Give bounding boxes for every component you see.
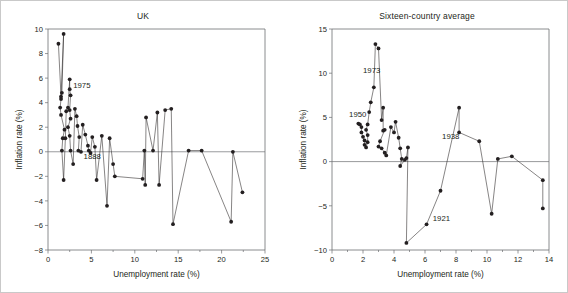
data-point	[79, 150, 83, 154]
series-line	[358, 44, 542, 243]
data-point	[141, 177, 145, 181]
annotation-label: 1950	[349, 110, 367, 119]
data-point	[77, 135, 81, 139]
data-point	[81, 123, 85, 127]
data-point	[397, 136, 401, 140]
data-point	[380, 146, 384, 150]
data-point	[68, 87, 72, 91]
data-point	[457, 106, 461, 110]
data-point	[200, 149, 204, 153]
data-point	[71, 162, 75, 166]
data-point	[241, 190, 245, 194]
data-point	[360, 131, 364, 135]
y-axis-title: Inflation rate (%)	[299, 109, 308, 169]
data-point	[383, 128, 387, 132]
x-tick-label: 5	[89, 255, 93, 264]
data-point	[57, 42, 61, 46]
data-point	[113, 174, 117, 178]
x-tick-label: 4	[392, 255, 396, 264]
data-point	[157, 183, 161, 187]
x-tick-label: 2	[361, 255, 365, 264]
y-tick-label: 8	[39, 49, 43, 58]
data-point	[93, 145, 97, 149]
x-tick-label: 12	[514, 255, 522, 264]
data-point	[405, 241, 409, 245]
annotation-label: 1938	[442, 132, 459, 141]
data-point	[372, 85, 376, 89]
data-point	[439, 189, 443, 193]
data-point	[367, 110, 371, 114]
x-tick-label: 10	[483, 255, 491, 264]
data-point	[63, 136, 67, 140]
data-point	[366, 123, 370, 127]
y-tick-label: −6	[34, 221, 43, 230]
x-tick-label: 0	[46, 255, 50, 264]
data-point	[60, 91, 64, 95]
data-point	[58, 106, 62, 110]
data-point	[105, 204, 109, 208]
y-tick-label: 15	[319, 25, 327, 34]
x-tick-label: 20	[217, 255, 225, 264]
data-point	[60, 149, 64, 153]
plot-area-uk: 1086420−2−4−6−80510152025Unemployment ra…	[1, 1, 285, 293]
data-point	[142, 149, 146, 153]
series-line	[58, 34, 242, 224]
y-tick-label: −4	[34, 197, 43, 206]
annotation-label: 1888	[84, 152, 101, 161]
data-point	[75, 114, 79, 118]
data-point	[64, 109, 68, 113]
data-point	[496, 157, 500, 161]
y-tick-label: 2	[39, 123, 43, 132]
data-point	[169, 107, 173, 111]
x-tick-label: 14	[545, 255, 553, 264]
y-tick-label: 10	[35, 25, 43, 34]
data-point	[187, 149, 191, 153]
data-point	[163, 108, 167, 112]
data-point	[425, 222, 429, 226]
plot-frame	[48, 29, 265, 250]
data-point	[360, 125, 364, 129]
data-point	[143, 183, 147, 187]
y-tick-label: 5	[323, 113, 327, 122]
data-point	[366, 140, 370, 144]
y-tick-label: −2	[34, 172, 43, 181]
data-point	[95, 178, 99, 182]
data-point	[364, 146, 368, 150]
x-tick-label: 0	[330, 255, 334, 264]
data-point	[229, 220, 233, 224]
annotation-label: 1973	[363, 66, 380, 75]
data-point	[83, 133, 87, 137]
panel-sixteen: Sixteen-country average 151050−5−1002468…	[285, 1, 568, 293]
data-point	[62, 178, 66, 182]
data-point	[394, 120, 398, 124]
data-point	[59, 97, 63, 101]
data-point	[389, 125, 393, 129]
y-tick-label: 6	[39, 74, 43, 83]
data-point	[68, 77, 72, 81]
y-tick-label: 0	[323, 157, 327, 166]
x-tick-label: 25	[261, 255, 269, 264]
x-tick-label: 15	[174, 255, 182, 264]
x-tick-label: 10	[131, 255, 139, 264]
x-axis-title: Unemployment rate (%)	[113, 270, 200, 279]
data-point	[374, 42, 378, 46]
y-tick-label: 0	[39, 147, 43, 156]
y-tick-label: 4	[39, 98, 43, 107]
data-point	[73, 107, 77, 111]
y-axis-title: Inflation rate (%)	[15, 109, 24, 169]
y-tick-label: −10	[314, 246, 327, 255]
figure-container: UK 1086420−2−4−6−80510152025Unemployment…	[0, 0, 568, 293]
data-point	[392, 131, 396, 135]
data-point	[477, 139, 481, 143]
data-point	[76, 124, 80, 128]
panel-uk: UK 1086420−2−4−6−80510152025Unemployment…	[1, 1, 285, 293]
data-point	[86, 144, 90, 148]
data-point	[384, 154, 388, 158]
x-tick-label: 6	[423, 255, 427, 264]
data-point	[69, 117, 73, 121]
data-point	[378, 139, 382, 143]
data-point	[541, 207, 545, 211]
data-point	[490, 212, 494, 216]
data-point	[69, 149, 73, 153]
data-point	[62, 32, 66, 36]
